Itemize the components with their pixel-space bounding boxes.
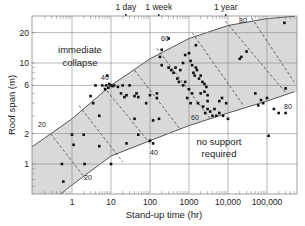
data-point: [186, 97, 189, 100]
data-point: [170, 69, 173, 72]
data-point: [184, 81, 187, 84]
data-point: [206, 108, 209, 111]
data-point: [156, 97, 159, 100]
data-point: [149, 139, 152, 142]
data-point: [174, 66, 177, 69]
x-tick-label: 10,000: [215, 197, 241, 207]
data-point: [205, 86, 208, 89]
data-point: [113, 84, 116, 87]
top-annotation: 1 year: [214, 2, 238, 12]
stand-up-time-chart: 110100100010,000100,00012610201 day1 wee…: [0, 0, 305, 226]
y-tick-label: 10: [20, 58, 30, 68]
data-point: [120, 92, 123, 95]
data-point: [202, 105, 205, 108]
top-annotation: 1 week: [145, 2, 173, 12]
rmr-label-80: 80: [239, 17, 247, 24]
data-point: [189, 60, 192, 63]
data-point: [198, 77, 201, 80]
top-annotation-marker: [225, 14, 227, 16]
data-point: [117, 86, 120, 89]
data-point: [107, 86, 110, 89]
rmr-label-40: 40: [150, 149, 158, 156]
data-point: [204, 112, 207, 115]
x-tick-label: 100,000: [252, 197, 283, 207]
region-label-no-support: required: [202, 148, 237, 159]
rmr-label-40: 40: [101, 74, 109, 81]
data-point: [133, 95, 136, 98]
x-tick-label: 100: [143, 197, 157, 207]
top-annotation-marker: [125, 14, 127, 16]
data-point: [191, 92, 194, 95]
data-point: [98, 115, 101, 118]
data-point: [199, 92, 202, 95]
data-point: [197, 102, 200, 105]
data-point: [211, 115, 214, 118]
x-tick-label: 1000: [180, 197, 199, 207]
region-label-immediate-collapse: collapse: [63, 57, 98, 68]
x-tick-label: 10: [106, 197, 116, 207]
data-point: [189, 102, 192, 105]
data-point: [254, 92, 257, 95]
rmr-label-60: 60: [191, 114, 199, 121]
data-point: [159, 56, 162, 59]
top-annotation-marker: [158, 14, 160, 16]
data-point: [135, 92, 138, 95]
data-point: [215, 115, 218, 118]
data-point: [273, 108, 276, 111]
data-point: [184, 54, 187, 57]
region-label-no-support: no support: [197, 136, 242, 147]
rmr-label-20: 20: [84, 174, 92, 181]
y-tick-label: 2: [24, 129, 29, 139]
data-point: [203, 90, 206, 93]
data-point: [128, 84, 131, 87]
data-point: [94, 84, 97, 87]
data-point: [160, 49, 163, 52]
data-point: [61, 163, 64, 166]
data-point: [105, 84, 108, 87]
data-point: [152, 119, 155, 122]
rmr-label-20: 20: [38, 121, 46, 128]
data-point: [213, 108, 216, 111]
data-point: [195, 44, 198, 47]
data-point: [218, 100, 221, 103]
data-point: [71, 133, 74, 136]
data-point: [209, 110, 212, 113]
x-tick-label: 1: [70, 197, 75, 207]
data-point: [203, 83, 206, 86]
data-point: [188, 52, 191, 55]
data-point: [149, 94, 152, 97]
data-point: [89, 95, 92, 98]
data-point: [257, 104, 260, 107]
data-point: [218, 112, 221, 115]
y-axis-title: Roof span (m): [6, 75, 17, 135]
data-point: [266, 97, 269, 100]
y-tick-label: 20: [20, 28, 30, 38]
y-tick-label: 6: [24, 80, 29, 90]
data-point: [206, 94, 209, 97]
data-point: [199, 74, 202, 77]
data-point: [104, 88, 107, 91]
data-point: [92, 102, 95, 105]
data-point: [260, 99, 263, 102]
data-point: [196, 69, 199, 72]
data-point: [195, 66, 198, 69]
data-point: [121, 84, 124, 87]
rmr-label-80: 80: [284, 103, 292, 110]
data-point: [262, 102, 265, 105]
region-label-immediate-collapse: immediate: [58, 44, 102, 55]
data-point: [284, 87, 287, 90]
rmr-label-60: 60: [161, 35, 169, 42]
data-point: [188, 88, 191, 91]
data-point: [227, 118, 230, 121]
data-point: [83, 163, 86, 166]
data-point: [182, 62, 185, 65]
data-point: [62, 180, 65, 183]
data-point: [277, 112, 280, 115]
data-point: [221, 97, 224, 100]
data-point: [125, 142, 128, 145]
data-point: [206, 100, 209, 103]
data-point: [98, 145, 101, 148]
x-axis-title: Stand-up time (hr): [126, 209, 203, 220]
data-point: [145, 102, 148, 105]
data-point: [82, 133, 85, 136]
